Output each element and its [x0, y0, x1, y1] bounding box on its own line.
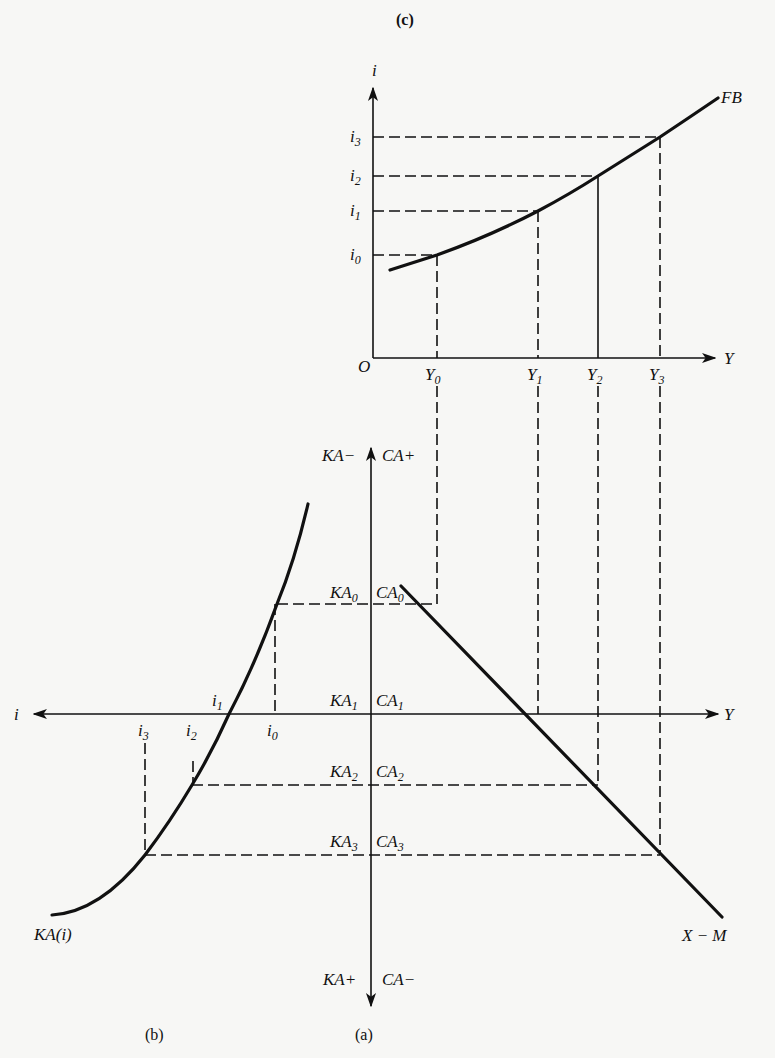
axis-ca-minus: CA− — [382, 970, 415, 989]
panel-label-b: (b) — [145, 1026, 164, 1044]
left-i-axis-label: i — [14, 705, 19, 724]
top-i-axis-label: i — [372, 61, 377, 80]
svg-text:KA3: KA3 — [329, 832, 358, 854]
panel-label-a: (a) — [355, 1026, 373, 1044]
svg-text:i2: i2 — [186, 721, 197, 743]
ka-ca-labels: KA0 CA0 KA1 CA1 KA2 CA2 KA3 CA3 — [329, 583, 404, 854]
svg-text:KA1: KA1 — [329, 691, 358, 713]
axis-ka-minus: KA− — [321, 446, 355, 465]
svg-text:CA2: CA2 — [376, 762, 404, 784]
ka-curve — [52, 504, 308, 915]
fb-curve-label: FB — [720, 88, 742, 107]
svg-text:KA2: KA2 — [329, 762, 358, 784]
x-minus-m-line — [401, 586, 722, 917]
svg-text:i0: i0 — [267, 721, 278, 743]
svg-text:Y3: Y3 — [649, 365, 664, 387]
four-quadrant-diagram: (c) i Y O FB i3 i2 i1 i0 Y0 Y1 Y2 Y3 KA−… — [0, 0, 775, 1058]
axis-ka-plus: KA+ — [322, 970, 356, 989]
svg-text:i0: i0 — [350, 245, 361, 267]
svg-text:i3: i3 — [138, 721, 149, 743]
axis-ca-plus: CA+ — [382, 446, 415, 465]
x-minus-m-label: X − M — [681, 926, 727, 945]
origin-label: O — [358, 357, 370, 376]
ka-curve-label: KA(i) — [33, 925, 72, 944]
svg-text:Y1: Y1 — [527, 365, 542, 387]
top-y-labels: Y0 Y1 Y2 Y3 — [425, 365, 664, 387]
svg-text:CA1: CA1 — [376, 691, 404, 713]
svg-text:Y2: Y2 — [587, 365, 602, 387]
svg-text:i2: i2 — [350, 166, 361, 188]
svg-text:i1: i1 — [350, 201, 361, 223]
svg-text:KA0: KA0 — [329, 583, 358, 605]
svg-text:CA3: CA3 — [376, 832, 404, 854]
bottom-i-labels: i0 i1 i2 i3 — [138, 691, 278, 743]
right-y-axis-label: Y — [724, 705, 735, 724]
fb-curve — [390, 98, 718, 270]
top-i-labels: i3 i2 i1 i0 — [350, 127, 361, 267]
panel-label-c: (c) — [396, 11, 414, 29]
svg-text:i3: i3 — [350, 127, 361, 149]
top-y-axis-label: Y — [724, 349, 735, 368]
svg-text:Y0: Y0 — [425, 365, 440, 387]
svg-text:i1: i1 — [212, 691, 223, 713]
